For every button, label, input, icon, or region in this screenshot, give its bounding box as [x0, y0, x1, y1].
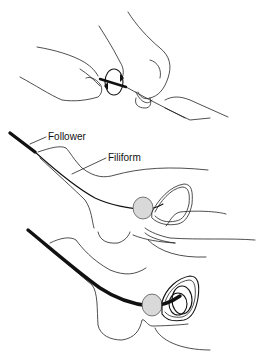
left-hand [20, 47, 102, 101]
panel-1 [20, 12, 228, 120]
bladder-inner-2 [155, 187, 189, 222]
follower-label: Follower [48, 132, 86, 142]
filiform-leader-line [72, 158, 106, 174]
body-outline-3b [98, 232, 206, 257]
follower-catheter-2 [10, 133, 35, 152]
follower-leader-line [30, 137, 46, 144]
filiform-1 [126, 87, 185, 118]
illustration-svg [0, 0, 263, 360]
panel-3 [28, 230, 210, 350]
lower-outline-2 [133, 228, 255, 243]
panel-2 [10, 133, 255, 243]
illustration-canvas: Follower Filiform [0, 0, 263, 360]
filiform-label: Filiform [108, 153, 141, 163]
urethra-outline-2 [40, 158, 226, 228]
prostate-2 [133, 197, 153, 219]
body-outline-3 [50, 238, 146, 274]
penis-outline-1 [165, 97, 228, 120]
prostate-3 [142, 294, 162, 316]
lower-outline-3 [155, 328, 210, 350]
urethra-outline-3 [52, 250, 188, 340]
